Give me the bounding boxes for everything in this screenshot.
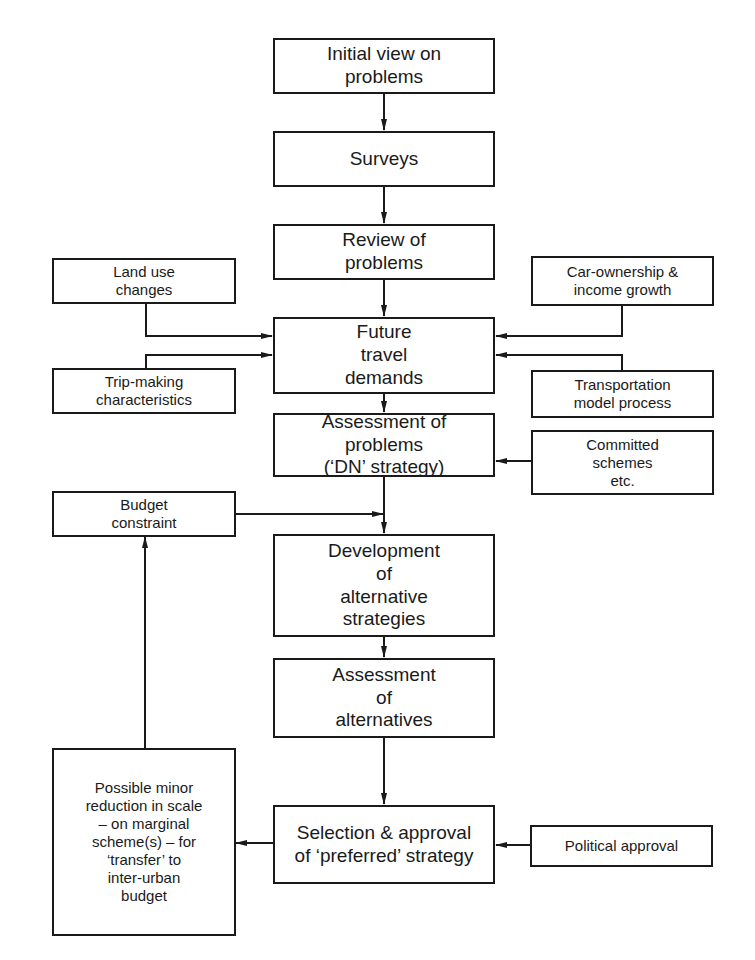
node-land-use-changes: Land use changes [52,258,236,304]
node-future-travel-demands: Future travel demands [273,317,495,394]
arrow-transport-to-future [496,355,622,370]
node-selection-approval: Selection & approval of ‘preferred’ stra… [273,805,495,884]
node-surveys: Surveys [273,131,495,187]
arrow-carownership-to-future [496,305,622,336]
node-initial-view: Initial view on problems [273,38,495,94]
node-trip-making: Trip-making characteristics [52,368,236,414]
node-review-of-problems: Review of problems [273,224,495,280]
node-transportation-model: Transportation model process [531,370,714,418]
arrow-landuse-to-future [146,303,272,336]
arrow-tripmaking-to-future [146,355,272,368]
node-budget-constraint: Budget constraint [52,491,236,537]
node-assessment-of-alternatives: Assessment of alternatives [273,658,495,738]
node-car-ownership: Car-ownership & income growth [531,256,714,306]
node-possible-reduction: Possible minor reduction in scale – on m… [52,748,236,936]
node-assessment-of-problems: Assessment of problems (‘DN’ strategy) [273,413,495,477]
node-development-of-alternatives: Development of alternative strategies [273,534,495,637]
node-committed-schemes: Committed schemes etc. [531,430,714,495]
node-political-approval: Political approval [530,825,713,867]
